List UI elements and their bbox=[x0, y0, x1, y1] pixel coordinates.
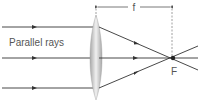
focal-length-label: f bbox=[133, 2, 136, 13]
arrow-icon bbox=[133, 56, 138, 60]
focal-point-dot bbox=[171, 56, 175, 60]
arrow-icon bbox=[134, 71, 139, 75]
refracted-ray-bottom bbox=[99, 46, 198, 88]
focal-point-label: F bbox=[171, 66, 177, 77]
arrow-icon bbox=[134, 41, 139, 45]
parallel-rays-label: Parallel rays bbox=[9, 37, 64, 48]
arrow-icon bbox=[32, 56, 37, 60]
arrow-icon bbox=[32, 86, 37, 90]
refracted-ray-top bbox=[99, 27, 198, 70]
arrow-icon bbox=[32, 25, 37, 29]
lens-diagram: f F Parallel rays bbox=[0, 0, 198, 108]
